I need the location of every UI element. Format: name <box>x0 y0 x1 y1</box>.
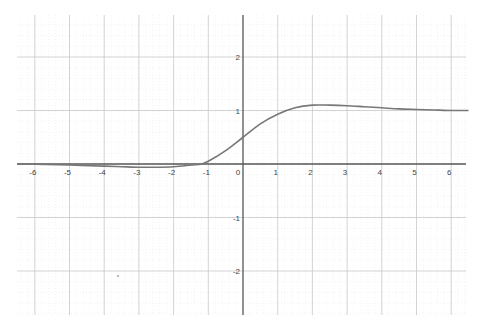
x-tick-label: 1 <box>273 168 278 177</box>
x-tick-label: -1 <box>203 168 211 177</box>
function-plot: -6-5-4-3-2-10123456 -2-112 <box>0 0 482 331</box>
x-tick-label: 0 <box>236 168 241 177</box>
x-tick-labels: -6-5-4-3-2-10123456 <box>29 168 452 177</box>
y-tick-label: -1 <box>233 214 241 223</box>
y-tick-label: 1 <box>236 107 241 116</box>
x-tick-label: 2 <box>308 168 313 177</box>
x-tick-label: 3 <box>343 168 348 177</box>
x-tick-label: 5 <box>412 168 417 177</box>
x-tick-label: -2 <box>168 168 176 177</box>
x-tick-label: 6 <box>447 168 452 177</box>
y-tick-label: 2 <box>236 53 241 62</box>
x-tick-label: -5 <box>64 168 72 177</box>
y-tick-label: -2 <box>233 267 241 276</box>
x-tick-label: 4 <box>378 168 383 177</box>
x-tick-label: -6 <box>29 168 37 177</box>
x-tick-label: -4 <box>99 168 107 177</box>
stray-point <box>117 275 119 277</box>
x-tick-label: -3 <box>133 168 141 177</box>
